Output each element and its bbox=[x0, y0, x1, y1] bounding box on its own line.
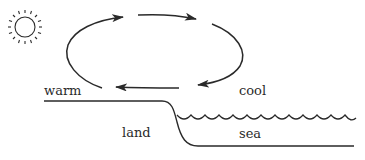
arrow-surface-sea-to-land bbox=[116, 87, 179, 88]
land-surface-line bbox=[44, 101, 354, 146]
label-cool: cool bbox=[239, 84, 266, 97]
label-warm: warm bbox=[44, 84, 81, 97]
arrow-sinking-over-sea bbox=[198, 24, 243, 85]
sun-icon bbox=[8, 10, 42, 44]
arrow-rising-over-land bbox=[67, 17, 123, 88]
label-sea: sea bbox=[239, 127, 261, 140]
arrow-aloft-land-to-sea bbox=[138, 15, 196, 19]
sea-waves bbox=[177, 115, 356, 120]
diagram-canvas bbox=[0, 0, 365, 160]
sea-breeze-diagram: warm cool land sea bbox=[0, 0, 365, 160]
label-land: land bbox=[122, 126, 151, 139]
